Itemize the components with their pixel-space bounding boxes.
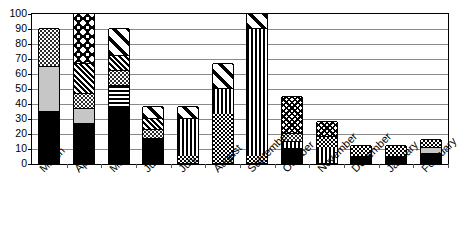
bar-segment[interactable]	[143, 118, 163, 129]
y-axis: 0102030405060708090100	[0, 0, 30, 238]
bar-slot	[32, 14, 67, 164]
bar-segment[interactable]	[247, 13, 267, 28]
y-tick-label: 80	[15, 38, 27, 48]
stacked-bar[interactable]	[108, 29, 130, 164]
bar-segment[interactable]	[143, 129, 163, 138]
x-axis: MarchAprilMayJuneJulyAugustSeptemberOcto…	[31, 164, 447, 238]
bar-segment[interactable]	[213, 88, 233, 114]
bar-segment[interactable]	[247, 28, 267, 156]
bar-segment[interactable]	[213, 63, 233, 89]
bar-segment[interactable]	[39, 28, 59, 66]
bar-segment[interactable]	[178, 106, 198, 118]
bar-segment[interactable]	[143, 106, 163, 118]
stacked-bar[interactable]	[38, 29, 60, 164]
bar-segment[interactable]	[109, 55, 129, 70]
bar-segment[interactable]	[39, 66, 59, 111]
bar-slot	[67, 14, 102, 164]
y-tick-label: 0	[21, 158, 27, 168]
bar-segment[interactable]	[317, 121, 337, 136]
bar-segment[interactable]	[74, 63, 94, 93]
bar-segment[interactable]	[178, 118, 198, 156]
bar-segment[interactable]	[109, 28, 129, 55]
y-tick-label: 90	[15, 23, 27, 33]
bar-slot	[136, 14, 171, 164]
stacked-bar[interactable]	[246, 14, 268, 164]
y-tick-label: 70	[15, 53, 27, 63]
bar-segment[interactable]	[282, 96, 302, 134]
x-tickmark	[448, 164, 449, 168]
bar-slot	[101, 14, 136, 164]
y-tick-label: 30	[15, 113, 27, 123]
y-tick-label: 100	[9, 8, 27, 18]
y-tick-label: 10	[15, 143, 27, 153]
stacked-bar[interactable]	[73, 14, 95, 164]
bar-segment[interactable]	[74, 13, 94, 63]
y-tick-label: 20	[15, 128, 27, 138]
y-tick-label: 50	[15, 83, 27, 93]
bar-segment[interactable]	[109, 70, 129, 85]
y-tick-label: 40	[15, 98, 27, 108]
bar-segment[interactable]	[74, 93, 94, 108]
bar-segment[interactable]	[74, 108, 94, 123]
y-tick-label: 60	[15, 68, 27, 78]
bar-slot	[171, 14, 206, 164]
bar-segment[interactable]	[109, 85, 129, 106]
